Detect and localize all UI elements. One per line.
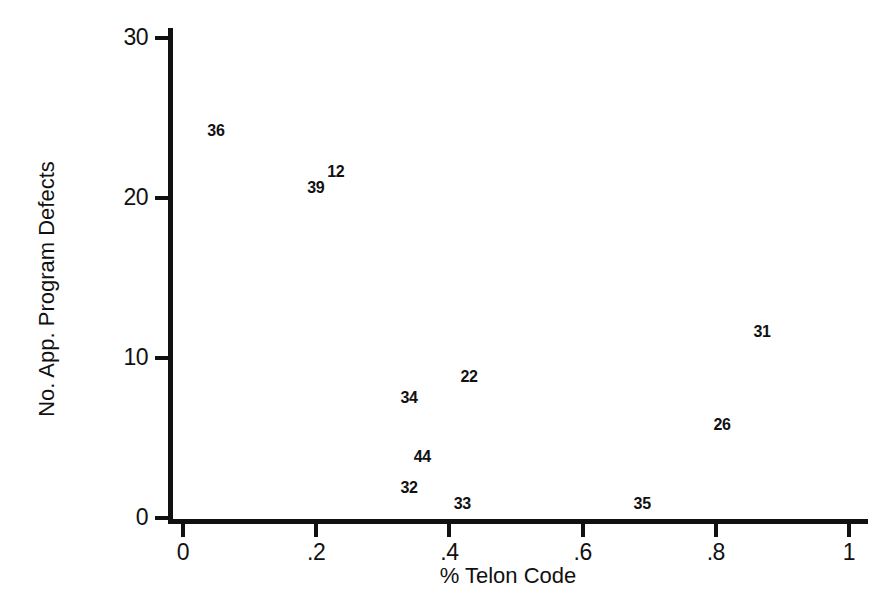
data-point-label: 44 bbox=[414, 449, 431, 465]
y-axis-title: No. App. Program Defects bbox=[36, 129, 58, 449]
x-tick-label: 0 bbox=[153, 541, 213, 564]
x-tick-label: .4 bbox=[419, 541, 479, 564]
x-tick-label: .8 bbox=[686, 541, 746, 564]
data-point-label: 39 bbox=[307, 180, 324, 196]
x-tick-mark bbox=[581, 524, 585, 537]
x-tick-mark bbox=[314, 524, 318, 537]
data-point-label: 22 bbox=[460, 369, 477, 385]
data-point-label: 26 bbox=[713, 417, 730, 433]
x-tick-label: .2 bbox=[286, 541, 346, 564]
data-point-label: 32 bbox=[400, 480, 417, 496]
scatter-plot: 0102030 0.2.4.6.81 361239312234264432333… bbox=[0, 0, 883, 593]
y-tick-label: 0 bbox=[88, 506, 148, 529]
x-axis-title: % Telon Code bbox=[383, 565, 633, 587]
data-point-label: 35 bbox=[634, 496, 651, 512]
x-axis-line bbox=[168, 519, 868, 524]
y-axis-line bbox=[168, 28, 173, 524]
y-tick-label: 20 bbox=[88, 186, 148, 209]
data-point-label: 36 bbox=[207, 123, 224, 139]
x-tick-mark bbox=[714, 524, 718, 537]
y-tick-mark bbox=[155, 36, 168, 40]
x-tick-label: .6 bbox=[553, 541, 613, 564]
y-tick-mark bbox=[155, 196, 168, 200]
x-tick-label: 1 bbox=[819, 541, 879, 564]
y-tick-label: 30 bbox=[88, 26, 148, 49]
data-point-label: 12 bbox=[327, 164, 344, 180]
x-tick-mark bbox=[181, 524, 185, 537]
x-tick-mark bbox=[447, 524, 451, 537]
data-point-label: 33 bbox=[454, 496, 471, 512]
data-point-label: 31 bbox=[753, 324, 770, 340]
y-tick-mark bbox=[155, 356, 168, 360]
y-tick-mark bbox=[155, 516, 168, 520]
data-point-label: 34 bbox=[400, 390, 417, 406]
x-tick-mark bbox=[847, 524, 851, 537]
y-tick-label: 10 bbox=[88, 346, 148, 369]
